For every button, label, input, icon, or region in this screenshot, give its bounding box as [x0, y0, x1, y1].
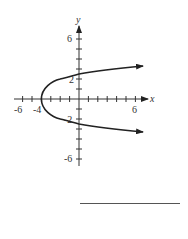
answer-blank-line[interactable] — [80, 203, 180, 204]
parabola-lower-branch — [41, 99, 143, 132]
y-axis-label: y — [75, 14, 81, 25]
parabola-upper-branch — [41, 66, 143, 99]
x-tick-label-6: 6 — [132, 104, 137, 115]
x-axis — [14, 96, 148, 102]
x-axis-label: x — [149, 93, 155, 104]
x-tick-label-neg4: -4 — [33, 104, 41, 115]
y-tick-label-neg6: -6 — [64, 153, 72, 164]
x-tick-label-neg6: -6 — [14, 104, 22, 115]
y-axis — [76, 26, 82, 166]
y-tick-label-6: 6 — [67, 33, 72, 44]
